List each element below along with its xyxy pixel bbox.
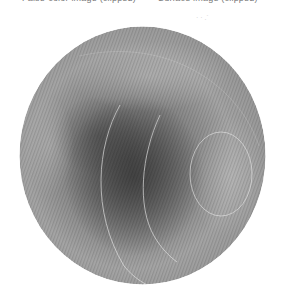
faint-corner-mark: · · .´ [196,14,209,21]
top-left-caption-clipped: False-color image (clipped) [22,0,136,3]
sphere-svg [19,26,266,285]
planet-sphere-image [19,26,266,285]
top-right-caption-clipped: Surface image (clipped) [158,0,258,3]
